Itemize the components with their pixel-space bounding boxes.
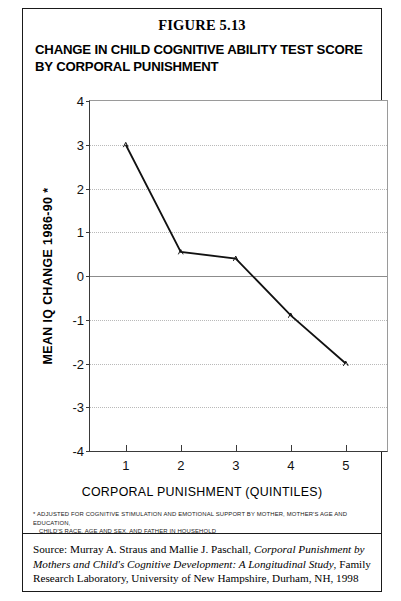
x-tick-label: 1 [122,458,129,473]
y-tick-mark [86,451,90,452]
series-polyline [126,145,346,364]
y-tick-label: 3 [77,137,84,152]
x-tick-label: 4 [287,458,294,473]
y-tick-label: 2 [77,181,84,196]
y-tick-label: -2 [72,356,84,371]
y-tick-label: -3 [72,400,84,415]
y-tick-label: 1 [77,225,84,240]
y-tick-label: 0 [77,269,84,284]
figure-number: FIGURE 5.13 [23,17,381,34]
x-tick-label: 5 [342,458,349,473]
footnote: * ADJUSTED FOR COGNITIVE STIMULATION AND… [33,510,373,536]
x-tick-label: 3 [232,458,239,473]
x-axis-title: CORPORAL PUNISHMENT (QUINTILES) [23,485,381,499]
source-prefix: Source: Murray A. Straus and Mallie J. P… [33,543,254,555]
data-series-line [90,101,387,451]
source-divider [23,533,381,534]
y-axis-title: MEAN IQ CHANGE 1986-90 * [37,100,59,452]
footnote-line-1: * ADJUSTED FOR COGNITIVE STIMULATION AND… [33,510,373,527]
chart-title-line-2: BY CORPORAL PUNISHMENT [35,59,375,76]
source-note: Source: Murray A. Straus and Mallie J. P… [33,542,373,586]
y-tick-label: -1 [72,312,84,327]
y-axis-title-label: MEAN IQ CHANGE 1986-90 * [41,188,55,365]
figure-card: FIGURE 5.13 CHANGE IN CHILD COGNITIVE AB… [22,8,382,592]
y-tick-label: -4 [72,444,84,459]
chart-title: CHANGE IN CHILD COGNITIVE ABILITY TEST S… [35,42,375,75]
x-tick-label: 2 [177,458,184,473]
y-tick-label: 4 [77,94,84,109]
footnote-line-2: CHILD'S RACE, AGE AND SEX, AND FATHER IN… [33,527,373,536]
chart-title-line-1: CHANGE IN CHILD COGNITIVE ABILITY TEST S… [35,42,363,57]
plot-area: 43210-1-2-3-4 12345 [89,100,388,452]
